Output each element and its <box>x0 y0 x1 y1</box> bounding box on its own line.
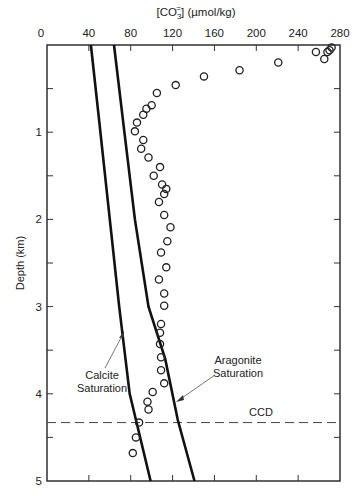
aragonite-arrowhead-icon <box>176 395 184 402</box>
data-point-marker <box>157 367 164 374</box>
data-point-marker <box>161 380 168 387</box>
depth-profile-chart: [CO3=] (µmol/kg) 04080120160200240280 12… <box>0 0 355 496</box>
x-tick-label: 120 <box>163 27 182 39</box>
data-point-marker <box>163 264 170 271</box>
data-point-marker <box>145 154 152 161</box>
data-point-marker <box>132 434 139 441</box>
axis-ticks <box>47 45 340 481</box>
y-tick-label: 4 <box>36 388 43 400</box>
y-tick-label: 1 <box>36 126 42 138</box>
plot-frame <box>47 45 340 481</box>
data-point-marker <box>145 406 152 413</box>
x-tick-label: 0 <box>38 27 44 39</box>
data-point-marker <box>144 398 151 405</box>
data-point-marker <box>149 388 156 395</box>
data-point-marker <box>200 73 207 80</box>
data-point-marker <box>138 145 145 152</box>
aragonite-arrow <box>179 375 215 400</box>
data-point-marker <box>155 276 162 283</box>
y-tick-label: 2 <box>36 213 42 225</box>
x-tick-label: 160 <box>205 27 224 39</box>
data-point-marker <box>155 198 162 205</box>
x-tick-label: 280 <box>330 27 349 39</box>
data-point-marker <box>275 59 282 66</box>
data-point-marker <box>150 172 157 179</box>
data-point-marker <box>324 48 331 55</box>
aragonite-label: Aragonite <box>214 354 261 366</box>
data-point-marker <box>148 102 155 109</box>
y-tick-labels: 12345 <box>36 126 43 487</box>
y-tick-label: 5 <box>36 475 42 487</box>
data-point-marker <box>153 89 160 96</box>
data-point-marker <box>156 163 163 170</box>
data-point-marker <box>164 238 171 245</box>
data-point-marker <box>157 320 164 327</box>
calcite-arrow <box>105 334 123 368</box>
y-tick-label: 3 <box>36 301 42 313</box>
data-point-marker <box>157 249 164 256</box>
x-tick-label: 240 <box>289 27 308 39</box>
measured-data-points <box>129 44 335 457</box>
data-point-marker <box>161 211 168 218</box>
calcite-label-line2: Saturation <box>77 382 127 394</box>
data-point-marker <box>161 290 168 297</box>
aragonite-label-line2: Saturation <box>213 367 263 379</box>
x-tick-label: 80 <box>124 27 137 39</box>
x-tick-label: 40 <box>82 27 95 39</box>
x-tick-labels: 04080120160200240280 <box>38 27 350 39</box>
data-point-marker <box>140 136 147 143</box>
y-axis-title: Depth (km) <box>14 236 26 290</box>
data-point-marker <box>172 82 179 89</box>
aragonite-saturation-line <box>114 45 195 481</box>
data-point-marker <box>161 302 168 309</box>
data-point-marker <box>167 224 174 231</box>
data-point-marker <box>236 67 243 74</box>
data-point-marker <box>159 181 166 188</box>
calcite-label: Calcite <box>85 369 119 381</box>
data-point-marker <box>321 55 328 62</box>
x-tick-label: 200 <box>247 27 266 39</box>
data-point-marker <box>129 449 136 456</box>
x-axis-title: [CO3=] (µmol/kg) <box>156 4 235 21</box>
data-point-marker <box>133 119 140 126</box>
data-point-marker <box>131 128 138 135</box>
data-point-marker <box>140 111 147 118</box>
ccd-label: CCD <box>249 406 273 418</box>
data-point-marker <box>312 48 319 55</box>
